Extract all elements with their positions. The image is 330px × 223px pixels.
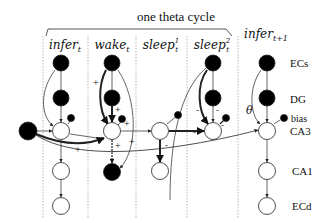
plus-sign: + xyxy=(93,77,99,88)
row-label-ecd: ECd xyxy=(292,200,312,212)
sleep2-ecs-node xyxy=(205,55,221,71)
infer-t-ecs-node xyxy=(53,55,69,71)
column-headers: infert waket sleep1t sleep2t infert+1 xyxy=(49,27,288,54)
column-label-wake-t: waket xyxy=(94,38,130,54)
infer-t1-ecd-node xyxy=(259,198,276,215)
sleep2-dg-node xyxy=(205,90,221,106)
plus-sign: + xyxy=(129,136,135,147)
wake-t-ca3-node xyxy=(104,123,121,140)
theta-cycle-diagram: one theta cycle infert waket sleep1t sle… xyxy=(0,0,330,223)
minus-sign: - xyxy=(193,127,196,137)
minus-sign: - xyxy=(196,105,199,115)
row-label-dg: DG xyxy=(290,93,306,105)
wake-t-ecs-node xyxy=(104,55,120,71)
plus-sign: + xyxy=(75,144,81,155)
column-label-sleep2-t: sleep2t xyxy=(194,37,231,54)
row-label-ca1: CA1 xyxy=(292,165,313,177)
column-label-infer-t1: infert+1 xyxy=(244,27,288,43)
infer-t1-ecs-node xyxy=(259,55,275,71)
plus-sign: + xyxy=(115,140,121,151)
sleep1-bias-node xyxy=(175,112,182,119)
sleep2-ca3-node xyxy=(205,123,222,140)
row-labels: ECs DG bias CA3 CA1 ECd xyxy=(290,57,313,212)
plus-sign: + xyxy=(115,104,121,115)
minus-sign: - xyxy=(216,105,219,115)
infer-t1-dg-node xyxy=(259,90,275,106)
infer-t1-ca1-node xyxy=(259,163,276,180)
row-label-ca3: CA3 xyxy=(290,125,311,137)
plus-sign: + xyxy=(124,118,130,129)
infer-t-dg-node xyxy=(53,90,69,106)
column-label-sleep1-t: sleep1t xyxy=(143,37,179,54)
theta-cycle-brace: one theta cycle xyxy=(46,9,232,36)
infer-t1-ca3-node xyxy=(259,123,276,140)
column-label-infer-t: infert xyxy=(49,38,82,54)
infer-t-ca1-node xyxy=(53,163,70,180)
row-label-bias: bias xyxy=(291,113,307,124)
nodes xyxy=(19,55,288,215)
infer-t-ca3-node xyxy=(53,123,70,140)
infer-t1-bias-node xyxy=(281,115,288,122)
infer-t-bias-node xyxy=(68,115,75,122)
infer-t-ecd-node xyxy=(53,198,70,215)
input-node xyxy=(19,122,37,140)
wake-t-output-node xyxy=(104,164,121,181)
brace-label: one theta cycle xyxy=(137,9,215,24)
sleep1-ca3-node xyxy=(152,123,169,140)
theta-label: θ xyxy=(246,104,253,117)
row-label-ecs: ECs xyxy=(290,57,308,69)
sleep1-ca1-node xyxy=(152,163,169,180)
minus-sign: - xyxy=(165,140,168,150)
minus-sign: - xyxy=(221,120,224,130)
